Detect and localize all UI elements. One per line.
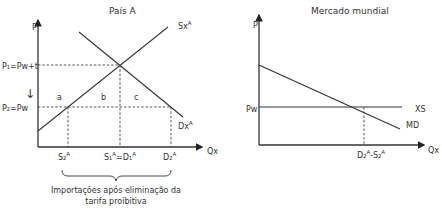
brace-caption-line1: Importações após eliminação da: [51, 185, 181, 195]
md-label: MD: [406, 121, 419, 130]
brace-caption-line2: tarifa proibitiva: [85, 197, 147, 206]
left-title: País A: [109, 6, 137, 16]
p2-label: P₂=Pw: [2, 104, 29, 113]
imports-tick-label: D₂A-S₂A: [357, 149, 385, 160]
left-y-axis-label: P: [32, 23, 37, 32]
s1-d1-tick-label: S₁A=D₁A: [104, 151, 136, 162]
diagram-canvas: País A P Qx SxA DxA P₁=Pw+t P₂=Pw ↓ a b …: [0, 0, 442, 214]
imports-brace: [62, 170, 171, 181]
xs-label: XS: [415, 105, 426, 114]
p1-label: P₁=Pw+t: [2, 62, 38, 71]
left-x-axis-label: Qx: [207, 147, 218, 156]
left-panel-pais-a: País A P Qx SxA DxA P₁=Pw+t P₂=Pw ↓ a b …: [2, 6, 218, 206]
d2-tick-label: D₂A: [163, 151, 176, 162]
demand-curve: [79, 32, 183, 117]
down-arrow-icon: ↓: [25, 87, 35, 101]
md-curve: [259, 65, 400, 129]
area-a-label: a: [57, 93, 62, 102]
pw-label: Pw: [246, 105, 258, 114]
supply-curve: [38, 27, 168, 131]
s2-tick-label: S₂A: [58, 151, 70, 162]
right-panel-mercado-mundial: Mercado mundial P Qx Pw XS MD D₂A-S₂A: [246, 6, 439, 160]
demand-label: DxA: [178, 120, 193, 131]
area-b-label: b: [101, 93, 106, 102]
right-x-axis-label: Qx: [428, 146, 439, 155]
right-title: Mercado mundial: [311, 6, 389, 16]
area-c-label: c: [134, 93, 138, 102]
right-y-axis-label: P: [253, 21, 258, 30]
supply-label: SxA: [178, 20, 192, 31]
